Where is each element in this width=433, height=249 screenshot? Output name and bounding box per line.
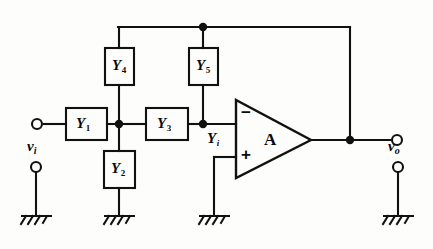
label-yi-node: Yi	[207, 131, 219, 146]
label-inverting-input-sign: −	[241, 104, 251, 121]
ground-input	[21, 216, 51, 224]
junction-inverting-node	[199, 120, 207, 128]
figure-canvas: Y1 Y2 Y3 Y4 Y5 Yi A − + vi vo	[0, 0, 433, 249]
label-y2: Y2	[111, 161, 125, 176]
label-y3: Y3	[157, 116, 171, 131]
junction-output-node	[346, 136, 354, 144]
terminal-input-ground	[31, 162, 41, 172]
junction-top-rail	[199, 23, 207, 31]
terminal-output-ground	[393, 162, 403, 172]
ground-y2	[104, 216, 134, 224]
label-amplifier: A	[264, 131, 276, 148]
label-y4: Y4	[112, 58, 126, 73]
circuit-schematic	[0, 0, 433, 249]
ground-noninverting	[199, 216, 229, 224]
ground-output	[383, 216, 413, 224]
label-noninverting-input-sign: +	[241, 146, 251, 163]
label-y5: Y5	[196, 58, 210, 73]
terminal-input-signal	[32, 119, 42, 129]
label-output-terminal: vo	[388, 139, 400, 154]
junction-mid-node	[115, 120, 123, 128]
label-input-terminal: vi	[27, 139, 36, 154]
label-y1: Y1	[76, 116, 90, 131]
